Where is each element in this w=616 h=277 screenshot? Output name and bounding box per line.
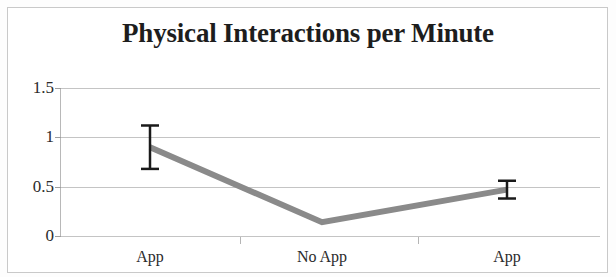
chart-figure: Physical Interactions per Minute 1.5 1 0… (0, 0, 616, 277)
series-layer (0, 0, 616, 277)
data-line-physical-interactions (150, 147, 507, 222)
error-bars (141, 125, 516, 198)
